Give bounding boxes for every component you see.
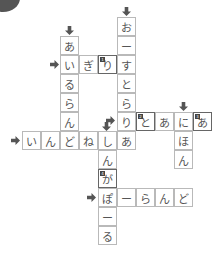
- grid-cell[interactable]: ど: [174, 188, 193, 207]
- cell-character: と: [121, 76, 132, 92]
- grid-cell[interactable]: に: [174, 112, 193, 131]
- cell-character: ー: [121, 38, 132, 54]
- cell-character: ん: [102, 152, 113, 168]
- grid-cell[interactable]: し: [98, 131, 117, 150]
- cell-character: ら: [64, 95, 75, 111]
- grid-cell[interactable]: る: [60, 74, 79, 93]
- cell-character: あ: [121, 133, 132, 149]
- grid-cell[interactable]: い: [60, 55, 79, 74]
- grid-cell[interactable]: 1り: [98, 55, 117, 74]
- section-marker-circle: [0, 0, 20, 12]
- clue-number-badge: 2: [138, 114, 143, 119]
- grid-cell[interactable]: ん: [174, 150, 193, 169]
- grid-cell[interactable]: あ: [155, 112, 174, 131]
- clue-number-badge: 4: [100, 171, 105, 176]
- grid-cell[interactable]: 4が: [98, 169, 117, 188]
- cell-character: す: [121, 57, 132, 73]
- grid-cell[interactable]: 2と: [136, 112, 155, 131]
- cell-character: ん: [159, 190, 170, 206]
- grid-cell[interactable]: ら: [60, 93, 79, 112]
- grid-cell[interactable]: ー: [117, 188, 136, 207]
- clue-number-badge: 1: [100, 57, 105, 62]
- cell-character: に: [178, 114, 189, 130]
- cell-character: お: [121, 19, 132, 35]
- grid-cell[interactable]: と: [117, 74, 136, 93]
- arrow-down-icon: [179, 102, 188, 111]
- cell-character: ど: [178, 190, 189, 206]
- grid-cell[interactable]: ー: [98, 207, 117, 226]
- cell-character: ん: [178, 152, 189, 168]
- grid-cell[interactable]: ね: [79, 131, 98, 150]
- arrow-right-icon: [87, 193, 96, 202]
- grid-cell[interactable]: ら: [136, 188, 155, 207]
- grid-cell[interactable]: ほ: [174, 131, 193, 150]
- grid-cell[interactable]: ん: [60, 112, 79, 131]
- grid-cell[interactable]: ら: [117, 93, 136, 112]
- grid-cell[interactable]: る: [98, 226, 117, 245]
- arrow-down-icon: [122, 7, 131, 16]
- cell-character: い: [64, 57, 75, 73]
- grid-cell[interactable]: ん: [155, 188, 174, 207]
- cell-character: り: [121, 114, 132, 130]
- grid-cell[interactable]: あ: [117, 131, 136, 150]
- cell-character: ん: [45, 133, 56, 149]
- grid-cell[interactable]: お: [117, 17, 136, 36]
- grid-cell[interactable]: ん: [98, 150, 117, 169]
- arrow-down-icon: [65, 26, 74, 35]
- cell-character: ぽ: [102, 190, 113, 206]
- cell-character: ら: [121, 95, 132, 111]
- cell-character: ー: [121, 190, 132, 206]
- cell-character: ど: [64, 133, 75, 149]
- cell-character: あ: [159, 114, 170, 130]
- grid-cell[interactable]: ー: [117, 36, 136, 55]
- grid-cell[interactable]: ぎ: [79, 55, 98, 74]
- cell-character: る: [102, 228, 113, 244]
- grid-cell[interactable]: い: [22, 131, 41, 150]
- cell-character: い: [26, 133, 37, 149]
- grid-cell[interactable]: ん: [41, 131, 60, 150]
- cell-character: ら: [140, 190, 151, 206]
- cell-character: ね: [83, 133, 94, 149]
- cell-character: ほ: [178, 133, 189, 149]
- arrow-right-icon: [50, 60, 59, 69]
- cell-character: る: [64, 76, 75, 92]
- grid-cell[interactable]: ぽ: [98, 188, 117, 207]
- grid-cell[interactable]: ど: [60, 131, 79, 150]
- grid-cell[interactable]: あ: [60, 36, 79, 55]
- cell-character: ー: [102, 209, 113, 225]
- cell-character: ん: [64, 114, 75, 130]
- clue-number-badge: 3: [195, 114, 200, 119]
- grid-cell[interactable]: り: [117, 112, 136, 131]
- grid-cell[interactable]: 3あ: [193, 112, 212, 131]
- cell-character: ぎ: [83, 57, 94, 73]
- cell-character: あ: [64, 38, 75, 54]
- arrow-right-icon: [11, 136, 20, 145]
- grid-cell[interactable]: す: [117, 55, 136, 74]
- arrow-right-icon: [106, 116, 115, 125]
- cell-character: し: [102, 133, 113, 149]
